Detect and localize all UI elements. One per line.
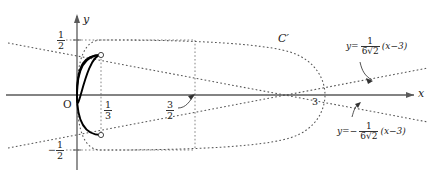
origin-label: O: [63, 99, 72, 110]
tick-label-y-neg-half-denominator: 2: [56, 150, 64, 161]
x-axis-label: x: [418, 88, 424, 99]
equation-lower-denominator: 6√2: [359, 131, 378, 141]
x-axis-arrowhead: [406, 92, 414, 98]
open-point-upper: [98, 52, 103, 57]
tick-label-x-three: 3: [312, 97, 318, 107]
tick-label-y-half-numerator: 1: [57, 30, 65, 40]
leader-arrows: [178, 62, 372, 117]
equation-upper-lhs: y=: [346, 41, 359, 51]
equation-lower-lhs: y=: [337, 126, 350, 136]
equation-lower: y=− 1 6√2 (x−3): [337, 122, 406, 141]
equation-upper-numerator: 1: [361, 37, 380, 46]
tick-label-y-half: 1 2: [57, 30, 65, 50]
open-point-lower: [98, 132, 103, 137]
equation-upper-rhs: (x−3): [382, 41, 407, 51]
tick-label-y-half-denominator: 2: [57, 40, 65, 51]
tick-label-y-neg-half-numerator: 1: [56, 140, 64, 150]
equation-lower-rhs: (x−3): [380, 126, 405, 136]
y-axis-label: y: [83, 14, 89, 25]
tick-label-x-third-numerator: 1: [104, 100, 112, 110]
tick-label-y-neg-half-sign: −: [48, 144, 56, 155]
equation-upper: y= 1 6√2 (x−3): [346, 37, 407, 56]
tick-label-x-three-halves: 3 2: [166, 100, 174, 120]
curve-solid-arc-upper: [77, 55, 101, 95]
tick-label-x-third: 1 3: [104, 100, 112, 120]
tick-label-x-three-halves-numerator: 3: [166, 100, 174, 110]
equation-lower-sign: −: [350, 126, 358, 136]
curve-label-c-prime: C′: [278, 33, 289, 44]
y-axis-arrowhead: [74, 14, 80, 23]
equation-upper-denominator: 6√2: [361, 46, 380, 56]
tick-label-x-three-halves-denominator: 2: [166, 110, 174, 121]
math-figure-canvas: [0, 0, 433, 180]
equation-lower-numerator: 1: [359, 122, 378, 131]
tick-label-x-third-denominator: 3: [104, 110, 112, 121]
arrow-upper-equation: [360, 62, 372, 80]
tick-label-y-neg-half: − 1 2: [48, 140, 64, 160]
